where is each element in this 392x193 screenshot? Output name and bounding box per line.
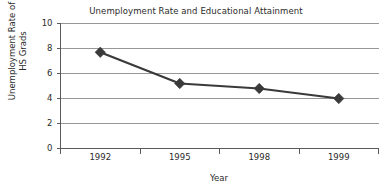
data-point-1995 — [175, 78, 185, 88]
series-line — [100, 52, 339, 98]
axis-ticks — [57, 24, 379, 154]
data-point-1998 — [254, 83, 264, 93]
plot-area — [0, 0, 392, 193]
data-point-1999 — [334, 93, 344, 103]
axis-lines — [61, 23, 379, 153]
x-axis-title: Year — [60, 173, 378, 183]
chart-container: Unemployment Rate and Educational Attain… — [0, 0, 392, 193]
